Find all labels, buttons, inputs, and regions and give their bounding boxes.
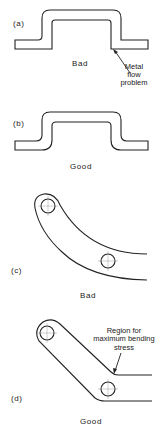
arrowhead-icon [113,49,118,54]
annotation-line-2: maximum bending [93,334,154,343]
panel-a: (a) Bad Metal flow problem [13,10,148,87]
panel-b-verdict: Good [70,162,92,171]
curved-link-outline [35,194,147,280]
panel-b: (b) Good [13,112,148,171]
annotation-arrow [115,353,121,371]
panel-c-verdict: Bad [80,291,96,300]
panel-d-verdict: Good [80,417,102,426]
annotation-line-3: stress [114,343,134,352]
design-comparison-diagram: (a) Bad Metal flow problem (b) Good (c) … [0,0,166,426]
panel-a-verdict: Bad [72,59,88,68]
hat-section-good [15,112,148,150]
panel-b-label: (b) [13,119,25,128]
panel-a-label: (a) [13,19,25,28]
panel-c: (c) Bad [11,194,147,300]
panel-d: Region for maximum bending stress (d) Go… [11,320,155,426]
annotation-line-3: problem [120,78,147,87]
panel-c-label: (c) [11,266,22,275]
panel-d-label: (d) [11,394,23,403]
hat-section-bad [15,10,148,49]
arrowhead-icon [113,368,117,374]
